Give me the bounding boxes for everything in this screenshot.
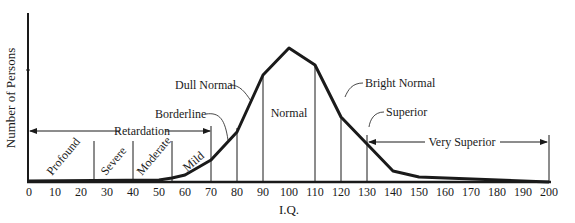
borderline-label: Borderline [155,107,206,121]
x-tick-label: 20 [75,185,87,199]
retardation-span: Retardation [30,124,210,138]
severe-label: Severe [98,144,130,178]
x-tick-label: 90 [257,185,269,199]
iq-distribution-chart: Number of Persons I.Q. 01020304050607080… [0,0,575,223]
mild-label: Mild [180,149,207,175]
x-tick-label: 100 [280,185,298,199]
very-superior-span: Very Superior [369,135,547,149]
bright-normal-leader [345,83,363,97]
very-superior-label: Very Superior [429,135,496,149]
x-tick-label: 110 [306,185,324,199]
superior-leader [369,112,384,127]
x-tick-label: 10 [49,185,61,199]
normal-label: Normal [271,106,308,120]
x-tick-label: 200 [540,185,558,199]
profound-label: Profound [44,135,83,178]
bright-normal-label: Bright Normal [365,76,436,90]
x-tick-label: 60 [179,185,191,199]
x-tick-label: 190 [514,185,532,199]
x-tick-label: 150 [410,185,428,199]
x-tick-label: 160 [436,185,454,199]
x-tick-labels: 0102030405060708090100110120130140150160… [26,185,558,199]
x-tick-label: 140 [384,185,402,199]
moderate-label: Moderate [134,134,174,178]
x-tick-label: 180 [488,185,506,199]
x-tick-label: 70 [205,185,217,199]
x-tick-label: 170 [462,185,480,199]
x-tick-label: 30 [101,185,113,199]
x-tick-label: 50 [153,185,165,199]
dull-normal-label: Dull Normal [175,78,237,92]
y-axis-label: Number of Persons [3,48,18,148]
x-axis-label: I.Q. [279,202,299,217]
superior-label: Superior [386,105,427,119]
x-tick-label: 120 [332,185,350,199]
borderline-leader [206,114,228,140]
x-tick-label: 40 [127,185,139,199]
x-tick-label: 130 [358,185,376,199]
x-tick-label: 0 [26,185,32,199]
x-tick-label: 80 [231,185,243,199]
